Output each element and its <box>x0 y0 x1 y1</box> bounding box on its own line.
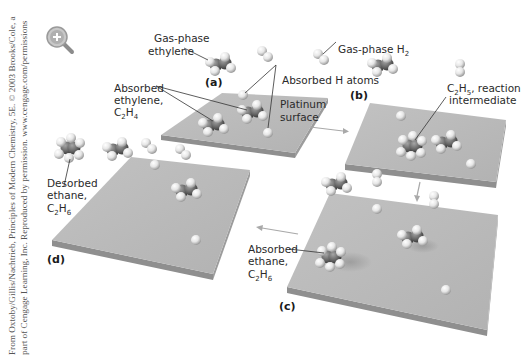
label-platinum-2: surface <box>280 111 319 123</box>
label-absorbed-ethylene-formula: C2H4 <box>114 106 139 121</box>
panel-label-a: (a) <box>205 76 222 89</box>
arrow-c-to-d <box>256 225 298 234</box>
absorbed-h-atom <box>396 111 406 121</box>
label-c2h5-2: intermediate <box>449 94 517 106</box>
gas-h2-molecule <box>455 59 465 77</box>
absorbed-h-atom <box>191 235 201 245</box>
desorbed-ethane-molecule <box>54 133 85 163</box>
credit-line-1: From Oxtoby/Gillis/Nachtrieb, Principles… <box>7 16 17 355</box>
gas-h2-molecule <box>175 144 191 160</box>
absorbed-h-atom <box>466 159 476 169</box>
label-absorbed-ethane-formula: C2H6 <box>248 268 273 283</box>
label-absorbed-h-atoms: Absorbed H atoms <box>282 74 379 86</box>
label-desorbed-ethane-formula: C2H6 <box>47 202 72 217</box>
hydrogenation-diagram: From Oxtoby/Gillis/Nachtrieb, Principles… <box>0 0 530 363</box>
absorbed-h-atom <box>150 160 160 170</box>
label-absorbed-ethylene-2: ethylene, <box>114 94 163 106</box>
label-absorbed-ethylene-1: Absorbed <box>114 82 164 94</box>
absorbed-h-atom <box>263 128 273 138</box>
gas-ethylene-molecule <box>205 52 236 76</box>
plate-b <box>345 103 506 188</box>
panel-label-d: (d) <box>47 253 65 266</box>
gas-ethylene-molecule <box>102 137 133 161</box>
credit-text: From Oxtoby/Gillis/Nachtrieb, Principles… <box>7 16 29 355</box>
arrow-b-to-c <box>414 182 420 202</box>
plate-d <box>52 157 250 280</box>
panel-label-c: (c) <box>279 300 296 313</box>
label-gas-phase-h2: Gas-phase H2 <box>338 43 409 58</box>
absorbed-h-atom <box>441 285 451 295</box>
gas-h2-molecule <box>429 191 439 209</box>
credit-line-2: part of Cengage Learning, Inc. Reproduce… <box>19 20 29 355</box>
magnifier-plus-icon[interactable] <box>47 27 72 52</box>
gas-ethylene-molecule <box>321 172 352 196</box>
h-atom <box>372 204 382 214</box>
label-gas-phase-ethylene-2: ethylene <box>148 45 194 57</box>
diagram-stage: From Oxtoby/Gillis/Nachtrieb, Principles… <box>0 0 530 363</box>
label-absorbed-ethane-2: ethane, <box>248 255 288 267</box>
label-desorbed-ethane-2: ethane, <box>47 189 87 201</box>
panel-label-b: (b) <box>350 89 368 102</box>
arrow-a-to-b <box>310 127 349 134</box>
label-platinum-1: Platinum <box>280 98 326 110</box>
gas-h2-molecule <box>313 49 329 65</box>
label-gas-phase-ethylene-1: Gas-phase <box>154 32 210 44</box>
label-desorbed-ethane-1: Desorbed <box>47 177 98 189</box>
label-absorbed-ethane-1: Absorbed <box>248 243 298 255</box>
gas-h2-molecule <box>257 46 273 62</box>
gas-h2-molecule <box>372 169 382 187</box>
gas-h2-molecule <box>141 138 157 154</box>
